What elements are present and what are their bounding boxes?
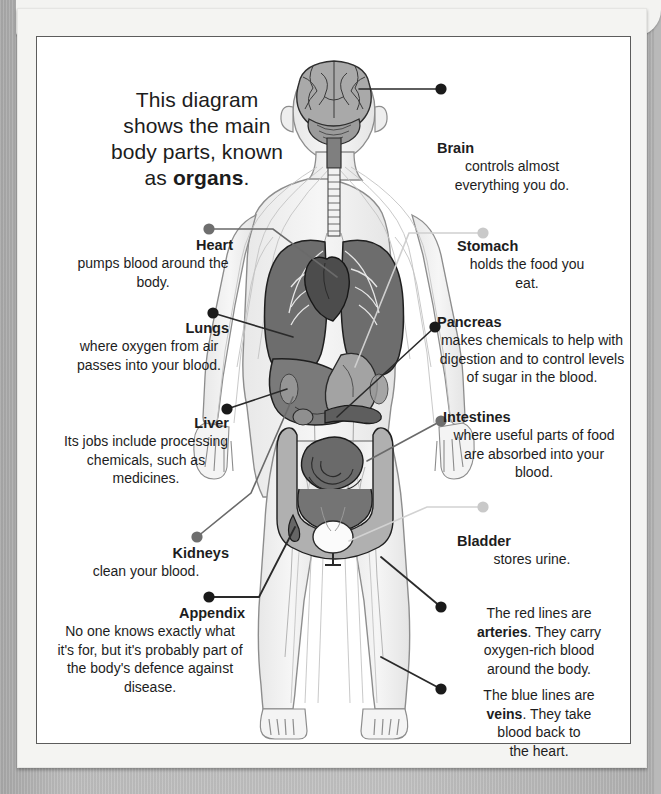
label-liver-title: Liver: [63, 415, 229, 432]
dot-stomach: [477, 227, 488, 238]
label-heart: Heart pumps blood around the body.: [73, 237, 233, 291]
label-liver-body: Its jobs include processing chemicals, s…: [64, 433, 228, 486]
label-kidneys-title: Kidneys: [63, 545, 229, 562]
label-kidneys-body: clean your blood.: [93, 563, 200, 579]
page-content-area: This diagram shows the main body parts, …: [36, 36, 631, 744]
dot-appendix: [203, 591, 214, 602]
label-stomach-body: holds the food you eat.: [470, 256, 584, 291]
dot-brain: [435, 83, 446, 94]
label-pancreas-title: Pancreas: [437, 314, 627, 331]
intro-line-3: body parts, known: [111, 140, 283, 163]
arteries-line-2: . They carry: [527, 624, 601, 640]
arteries-line-3: oxygen-rich blood: [484, 642, 595, 658]
veins-line-2: . They take: [522, 706, 591, 722]
intro-line-4-post: .: [244, 166, 250, 189]
label-brain-body: controls almost everything you do.: [455, 158, 569, 193]
label-brain-title: Brain: [437, 140, 587, 157]
dot-heart: [203, 223, 214, 234]
dot-bladder: [477, 501, 488, 512]
diagram-page: This diagram shows the main body parts, …: [17, 8, 647, 768]
intro-caption: This diagram shows the main body parts, …: [81, 87, 313, 191]
label-kidneys: Kidneys clean your blood.: [63, 545, 229, 581]
veins-line-1: The blue lines are: [483, 687, 594, 703]
label-pancreas: Pancreas makes chemicals to help with di…: [437, 314, 627, 387]
label-lungs: Lungs where oxygen from air passes into …: [69, 320, 229, 374]
label-arteries: The red lines are arteries. They carry o…: [455, 604, 623, 678]
label-bladder-body: stores urine.: [493, 551, 570, 567]
label-appendix: Appendix No one knows exactly what it's …: [55, 605, 245, 696]
label-appendix-title: Appendix: [55, 605, 245, 622]
label-brain: Brain controls almost everything you do.: [437, 140, 587, 194]
label-lungs-body: where oxygen from air passes into your b…: [77, 338, 221, 373]
label-heart-title: Heart: [73, 237, 233, 254]
label-stomach: Stomach holds the food you eat.: [457, 238, 597, 292]
dot-lungs: [207, 307, 218, 318]
label-bladder-title: Bladder: [457, 533, 607, 550]
label-heart-body: pumps blood around the body.: [78, 255, 229, 290]
veins-line-4: the heart.: [509, 743, 568, 759]
label-appendix-body: No one knows exactly what it's for, but …: [57, 623, 242, 695]
veins-line-3: blood back to: [497, 724, 580, 740]
label-intestines-title: Intestines: [443, 409, 625, 426]
dot-liver: [221, 403, 232, 414]
veins-keyword: veins: [487, 706, 523, 722]
arteries-keyword: arteries: [477, 624, 528, 640]
label-pancreas-body: makes chemicals to help with digestion a…: [440, 332, 624, 385]
label-liver: Liver Its jobs include processing chemic…: [63, 415, 229, 488]
label-lungs-title: Lungs: [69, 320, 229, 337]
label-intestines-body: where useful parts of food are absorbed …: [453, 427, 614, 480]
label-intestines: Intestines where useful parts of food ar…: [443, 409, 625, 482]
label-bladder: Bladder stores urine.: [457, 533, 607, 569]
arteries-line-4: around the body.: [487, 661, 591, 677]
dot-kidneys: [191, 531, 202, 542]
intro-line-4-pre: as: [145, 166, 173, 189]
label-stomach-title: Stomach: [457, 238, 597, 255]
dot-veins: [435, 683, 446, 694]
intro-line-1: This diagram: [136, 88, 259, 111]
intro-line-2: shows the main: [123, 114, 270, 137]
label-veins: The blue lines are veins. They take bloo…: [455, 686, 623, 760]
intro-keyword-organs: organs: [173, 166, 244, 189]
dot-arteries: [435, 601, 446, 612]
arteries-line-1: The red lines are: [486, 605, 591, 621]
